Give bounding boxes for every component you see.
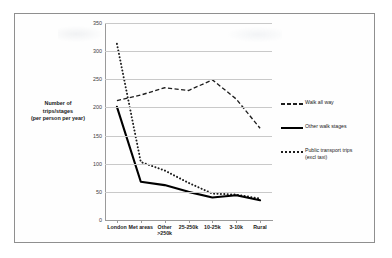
legend-label-0: Walk all way — [305, 99, 375, 106]
legend-label-line-0: Walk all way — [305, 99, 375, 106]
legend-label-1: Other walk stages — [305, 123, 375, 130]
x-tick-label-rural: Rural — [238, 224, 282, 230]
series-line-walk-all-way — [117, 80, 260, 128]
y-tick-label-0: 0 — [80, 217, 102, 223]
series-lines — [105, 23, 272, 220]
gridline-350 — [105, 23, 272, 24]
x-tick-2 — [165, 220, 166, 223]
x-tick-3 — [189, 220, 190, 223]
legend-label-line-1: (excl taxi) — [305, 154, 375, 161]
x-tick-1 — [141, 220, 142, 223]
x-tick-5 — [236, 220, 237, 223]
y-tick-label-50: 50 — [80, 189, 102, 195]
legend-label-line-0: Public transport trips — [305, 147, 375, 154]
gridline-100 — [105, 164, 272, 165]
dashed-line-key — [281, 103, 303, 105]
x-tick-4 — [212, 220, 213, 223]
x-tick-label-line-1: >250k — [143, 230, 187, 236]
y-tick-label-300: 300 — [80, 48, 102, 54]
y-tick-label-250: 250 — [80, 76, 102, 82]
y-tick-label-200: 200 — [80, 104, 102, 110]
solid-line-key — [281, 127, 303, 129]
chart-legend: Walk all wayOther walk stagesPublic tran… — [281, 100, 373, 180]
gridline-50 — [105, 192, 272, 193]
x-tick-label-line-0: Rural — [238, 224, 282, 230]
x-tick-6 — [260, 220, 261, 223]
chart-figure: Number of trips/stages (per person per y… — [0, 0, 392, 258]
dotted-line-key — [281, 151, 303, 153]
gridline-200 — [105, 107, 272, 108]
gridline-300 — [105, 51, 272, 52]
y-tick-label-150: 150 — [80, 133, 102, 139]
legend-label-2: Public transport trips(excl taxi) — [305, 147, 375, 160]
plot-area — [105, 23, 272, 220]
x-tick-0 — [117, 220, 118, 223]
legend-label-line-0: Other walk stages — [305, 123, 375, 130]
y-tick-label-100: 100 — [80, 161, 102, 167]
y-axis-tick-labels: 050100150200250300350 — [78, 23, 102, 221]
gridline-150 — [105, 136, 272, 137]
x-axis-tick-labels: LondonMet areasOther>250k25-250k10-25k3-… — [88, 224, 288, 244]
y-tick-label-350: 350 — [80, 20, 102, 26]
gridline-250 — [105, 79, 272, 80]
